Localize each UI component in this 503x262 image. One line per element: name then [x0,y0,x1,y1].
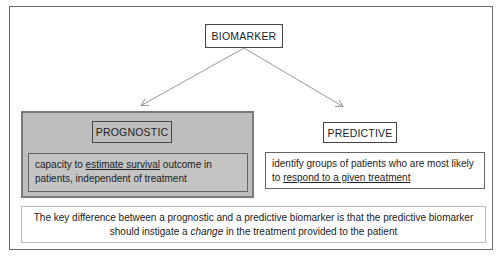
predictive-description: identify groups of patients who are most… [265,152,485,189]
arrow-to-prognostic [142,48,244,105]
predictive-node: PREDICTIVE [323,122,397,143]
predictive-label: PREDICTIVE [327,127,392,139]
prognostic-desc-emphasis: estimate survival [86,159,160,170]
arrow-to-predictive [244,48,342,106]
prognostic-node: PROGNOSTIC [92,121,172,143]
biomarker-node: BIOMARKER [205,24,283,48]
key-difference-note: The key difference between a prognostic … [21,206,486,243]
prognostic-label: PROGNOSTIC [96,126,169,138]
predictive-desc-emphasis: respond to a given treatment [283,172,410,183]
biomarker-label: BIOMARKER [212,30,277,42]
prognostic-desc-text: capacity to [35,159,86,170]
prognostic-description: capacity to estimate survival outcome in… [28,153,248,192]
note-emphasis: change [190,226,223,237]
note-text-end: in the treatment provided to the patient [223,226,397,237]
